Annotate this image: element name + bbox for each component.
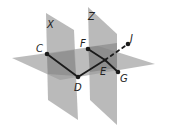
point-d: [76, 75, 81, 80]
label-e: E: [100, 66, 107, 77]
label-c: C: [36, 43, 43, 54]
geometry-diagram: X Z C D F E G J: [0, 0, 169, 129]
label-plane-x: X: [46, 19, 55, 30]
label-d: D: [74, 82, 82, 93]
point-f: [86, 47, 91, 52]
label-plane-z: Z: [87, 11, 96, 22]
label-g: G: [120, 73, 128, 84]
point-e: [103, 58, 106, 61]
horizontal-plane: [12, 46, 155, 80]
point-c: [45, 52, 50, 57]
label-f: F: [80, 38, 86, 49]
